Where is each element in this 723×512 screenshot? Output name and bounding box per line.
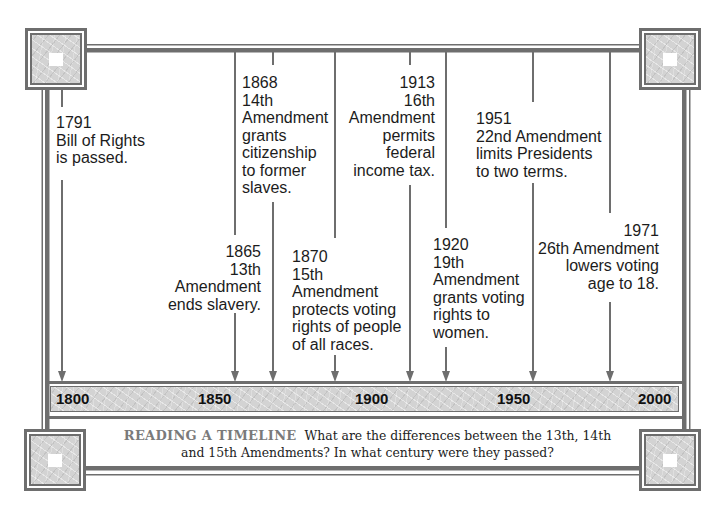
event-year: 1913: [349, 74, 435, 92]
arrow-down-icon: [529, 371, 537, 382]
event-1791: 1791 Bill of Rights is passed.: [56, 114, 145, 167]
frame-top-thick: [87, 48, 639, 53]
bar-bottom-band: [45, 416, 686, 419]
event-description-line: slaves.: [242, 179, 328, 197]
event-1870: 1870 15th Amendment protects voting righ…: [292, 248, 401, 353]
event-description-line: Bill of Rights: [56, 132, 145, 150]
event-year: 1951: [476, 110, 601, 128]
corner-square-icon: [49, 53, 63, 66]
event-1920: 1920 19th Amendment grants voting rights…: [433, 236, 525, 341]
arrow-down-icon: [269, 371, 277, 382]
frame-right-thin: [689, 90, 691, 429]
arrow-down-icon: [442, 371, 450, 382]
event-description-line: Amendment: [168, 278, 261, 296]
event-description-line: permits: [349, 127, 435, 145]
caption-heading: READING A TIMELINE: [124, 428, 297, 443]
event-description-line: grants: [242, 127, 328, 145]
arrow-down-icon: [406, 371, 414, 382]
event-description-line: to two terms.: [476, 163, 601, 181]
arrow-down-icon: [331, 371, 339, 382]
event-description-line: Amendment: [349, 109, 435, 127]
event-year: 1920: [433, 236, 525, 254]
event-1865: 1865 13th Amendment ends slavery.: [168, 243, 261, 313]
event-description-line: grants voting: [433, 289, 525, 307]
event-1913: 1913 16th Amendment permits federal inco…: [349, 74, 435, 179]
corner-ornament-top-right: [639, 28, 701, 90]
caption-line-1: READING A TIMELINEWhat are the differenc…: [49, 427, 686, 444]
event-description-line: 19th: [433, 254, 525, 272]
frame-right-thick: [682, 90, 687, 429]
corner-texture: [644, 33, 696, 85]
event-year: 1868: [242, 74, 328, 92]
caption: READING A TIMELINEWhat are the differenc…: [49, 427, 686, 461]
event-year: 1791: [56, 114, 145, 132]
corner-ornament-top-left: [25, 28, 87, 90]
event-description-line: citizenship: [242, 144, 328, 162]
axis-label-2000: 2000: [638, 391, 671, 406]
event-description-line: Amendment: [292, 283, 401, 301]
frame-top-thin: [87, 44, 639, 46]
event-description-line: 14th: [242, 92, 328, 110]
arrowheads: [58, 371, 614, 382]
event-description-line: 22nd Amendment: [476, 128, 601, 146]
event-year: 1971: [538, 222, 659, 240]
caption-question-part-1: What are the differences between the 13t…: [305, 428, 612, 443]
arrow-down-icon: [58, 371, 66, 382]
axis-label-1950: 1950: [497, 391, 530, 406]
event-description-line: age to 18.: [538, 275, 659, 293]
event-description-line: lowers voting: [538, 257, 659, 275]
arrow-down-icon: [231, 371, 239, 382]
frame-left-thick: [45, 89, 50, 429]
event-description-line: ends slavery.: [168, 296, 261, 314]
axis-label-1900: 1900: [355, 391, 388, 406]
event-1971: 1971 26th Amendment lowers voting age to…: [538, 222, 659, 292]
event-description-line: to former: [242, 162, 328, 180]
event-description-line: limits Presidents: [476, 145, 601, 163]
event-1868: 1868 14th Amendment grants citizenship t…: [242, 74, 328, 197]
event-description-line: rights to: [433, 306, 525, 324]
frame-bottom-thick: [86, 466, 639, 471]
bar-top-band: [45, 381, 686, 384]
axis-label-1800: 1800: [56, 391, 89, 406]
corner-texture: [30, 33, 82, 85]
event-description-line: income tax.: [349, 162, 435, 180]
event-description-line: 13th: [168, 261, 261, 279]
event-description-line: of all races.: [292, 336, 401, 354]
event-description-line: rights of people: [292, 318, 401, 336]
event-description-line: 15th: [292, 266, 401, 284]
event-description-line: 16th: [349, 92, 435, 110]
corner-square-icon: [663, 53, 677, 66]
event-description-line: Amendment: [433, 271, 525, 289]
axis-label-1850: 1850: [198, 391, 231, 406]
event-year: 1870: [292, 248, 401, 266]
frame-bottom-thin: [86, 474, 639, 476]
event-1951: 1951 22nd Amendment limits Presidents to…: [476, 110, 601, 180]
event-year: 1865: [168, 243, 261, 261]
event-description-line: Amendment: [242, 109, 328, 127]
frame-left-thin: [42, 89, 44, 429]
event-description-line: is passed.: [56, 149, 145, 167]
event-description-line: women.: [433, 324, 525, 342]
arrow-down-icon: [606, 371, 614, 382]
event-description-line: 26th Amendment: [538, 240, 659, 258]
timeline-figure: 1800 1850 1900 1950 2000 1791 Bill of Ri…: [0, 0, 723, 512]
caption-question-part-2: and 15th Amendments? In what century wer…: [49, 444, 686, 461]
event-description-line: federal: [349, 144, 435, 162]
event-description-line: protects voting: [292, 301, 401, 319]
